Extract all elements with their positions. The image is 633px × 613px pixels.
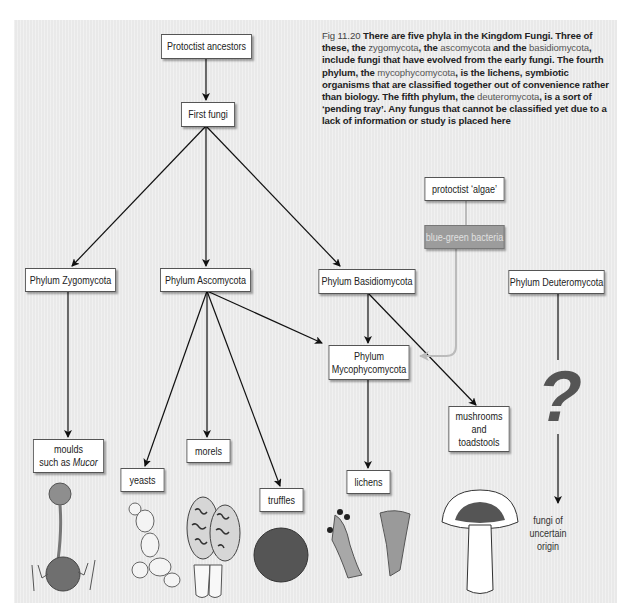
truffle-illustration: [254, 528, 308, 582]
mucor-illustration: [32, 483, 95, 591]
node-yeasts: yeasts: [120, 468, 164, 492]
node-truffles: truffles: [259, 488, 303, 512]
node-phylum-ascomycota: Phylum Ascomycota: [160, 268, 251, 292]
node-phylum-basidiomycota: Phylum Basidiomycota: [318, 269, 415, 294]
node-lichens: lichens: [346, 470, 390, 494]
node-moulds: moulds such as Mucor: [33, 439, 104, 473]
mushroom-illustration: [442, 490, 518, 594]
node-mushrooms-toadstools: mushrooms and toadstools: [448, 406, 509, 452]
figure-label: Fig 11.20: [322, 30, 360, 41]
node-phylum-zygomycota: Phylum Zygomycota: [25, 268, 116, 292]
node-protoctist-algae: protoctist ‘algae’: [424, 177, 504, 201]
node-protoctist-ancestors: Protoctist ancestors: [161, 34, 252, 59]
node-phylum-mycophycomycota: Phylum Mycophycomycota: [329, 345, 410, 380]
morel-illustration: [187, 497, 240, 598]
node-first-fungi: First fungi: [181, 102, 235, 127]
figure-caption: Fig 11.20 There are five phyla in the Ki…: [322, 30, 614, 128]
node-morels: morels: [186, 439, 230, 463]
yeast-illustration: [129, 503, 180, 587]
lichen-illustration: [327, 509, 410, 578]
node-phylum-deuteromycota: Phylum Deuteromycota: [508, 270, 604, 294]
node-blue-green-bacteria: blue-green bacteria: [424, 225, 504, 249]
uncertain-origin-label: fungi of uncertain origin: [517, 514, 580, 553]
